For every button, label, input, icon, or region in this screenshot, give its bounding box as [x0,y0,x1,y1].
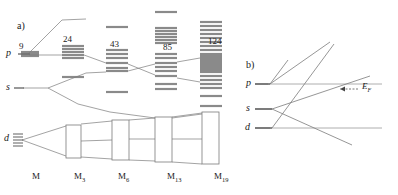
d-band-mid-1 [81,140,112,141]
x-axis-label-2: M6 [118,172,129,183]
d-level-striations [13,134,23,146]
corr-line-s-down4 [172,114,202,118]
figure-root: a) p s d 9244385124 MM3M6M13M19 b) p s d… [0,0,398,195]
corr-line-p-top [28,20,62,54]
corr-line-s-down2 [78,104,110,112]
d-fan-upper [22,126,66,140]
x-axis-label-0: M [32,172,40,181]
panel-b-label: b) [246,60,254,70]
d-band-lower-1 [81,157,112,159]
corr-line-m13-m19 [177,78,200,82]
electron-count-2: 43 [110,40,119,49]
corr-line-s-m13 [128,64,155,71]
figure-svg [0,0,398,195]
corr-line-m6-m13 [128,64,155,75]
corr-line-s-up [48,73,86,88]
d-band-upper-2 [129,118,155,120]
panel-b-line-s-down [272,109,352,145]
panel-b-s-label: s [246,103,250,113]
d-band-upper-3 [172,113,202,117]
x-axis-label-4: M19 [214,172,229,183]
panel-b-line-s-up [272,76,370,109]
electron-count-1: 24 [63,35,72,44]
panel-a-label: a) [17,21,25,31]
panel-a-d-label: d [4,133,9,143]
energy-levels-panel-a [21,12,222,106]
x-axis-label-3: M13 [167,172,182,183]
panel-a-p-label: p [6,48,11,58]
panel-b-line-p-steep [270,60,288,84]
electron-count-4: 124 [208,37,222,46]
band-box-M19 [155,117,172,162]
d-band-upper-1 [81,121,112,124]
panel-b-line-p-up [270,42,330,84]
corr-line-m3-m6 [84,55,106,63]
electron-count-3: 85 [163,43,172,52]
panel-a-s-label: s [6,82,10,92]
corr-line-s-down3 [110,112,155,118]
d-fan-lower [22,140,66,156]
d-band-boxes [66,112,219,164]
panel-b-p-label: p [246,78,251,88]
x-axis-label-1: M3 [74,172,85,183]
panel-b-d-label: d [245,122,250,132]
fermi-arrow-icon [340,87,358,92]
panel-b-drawing [255,42,382,145]
electron-count-0: 9 [19,42,24,51]
corr-line-s-down [48,88,78,104]
d-band-lower-2 [129,160,155,161]
band-box-M13 [112,120,129,160]
corr-line-s-m6 [86,72,106,73]
panel-b-line-d-up [272,44,334,128]
d-band-lower-3 [172,162,202,164]
corr-line-s-m19 [177,58,200,62]
band-box-M6 [66,125,81,158]
fermi-energy-label: EF [362,82,371,93]
corr-line-top-flat [62,19,86,20]
band-box-M19b [202,112,219,164]
